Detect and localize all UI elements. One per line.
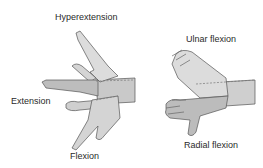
extension-label: Extension <box>11 97 51 106</box>
radial-flexion-label: Radial flexion <box>184 141 238 150</box>
left-hand-figure <box>42 31 135 150</box>
radial-flexion-hand <box>166 96 229 136</box>
flexion-label: Flexion <box>70 152 99 161</box>
extension-hand <box>42 80 98 96</box>
right-hand-figure <box>166 50 256 136</box>
hyperextension-label: Hyperextension <box>55 13 118 22</box>
ulnar-flexion-label: Ulnar flexion <box>186 35 236 44</box>
